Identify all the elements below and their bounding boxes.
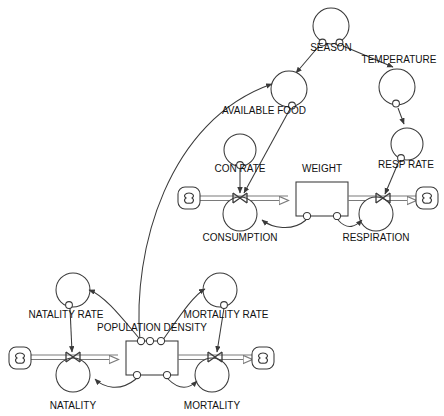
converter-season[interactable] <box>313 8 349 44</box>
flow-natality-circle[interactable] <box>56 358 90 392</box>
flow-consumption-circle[interactable] <box>223 197 257 231</box>
consumption-source-cloud <box>178 187 200 209</box>
stock-population-density[interactable] <box>126 341 178 375</box>
converter-available-food[interactable] <box>271 71 307 107</box>
label-con-rate: CON RATE <box>215 163 266 174</box>
connector-population-density-to-mortality[interactable] <box>168 379 197 387</box>
population-density-port-top-1 <box>137 337 144 344</box>
label-population-density: POPULATION DENSITY <box>97 322 207 333</box>
respiration-sink-cloud <box>416 187 438 209</box>
natality-source-cloud <box>9 347 31 369</box>
label-natality: NATALITY <box>50 400 97 411</box>
population-density-port-top-2 <box>146 337 153 344</box>
stock-weight[interactable] <box>296 182 348 216</box>
flow-mortality-circle[interactable] <box>195 358 229 392</box>
connector-population-density-to-natality[interactable] <box>95 379 136 387</box>
label-resp-rate: RESP RATE <box>378 159 434 170</box>
connector-weight-to-consumption[interactable] <box>262 220 306 228</box>
converter-temperature[interactable] <box>379 69 415 105</box>
weight-port-left <box>303 212 310 219</box>
label-season: SEASON <box>310 42 352 53</box>
converter-mortality-rate[interactable] <box>203 273 237 307</box>
population-density-port-bottom-left <box>133 371 140 378</box>
diagram-canvas: SEASON TEMPERATURE AVAILABLE FOOD CON RA… <box>0 0 444 416</box>
weight-port-right <box>333 212 340 219</box>
label-mortality-rate: MORTALITY RATE <box>184 309 269 320</box>
connector-temperature-to-resp-rate[interactable] <box>398 108 404 124</box>
label-respiration: RESPIRATION <box>342 232 409 243</box>
natality-rate-port <box>66 302 73 309</box>
converter-resp-rate[interactable] <box>391 128 423 160</box>
label-available-food: AVAILABLE FOOD <box>222 105 306 116</box>
label-natality-rate: NATALITY RATE <box>29 309 104 320</box>
label-temperature: TEMPERATURE <box>362 54 437 65</box>
connector-weight-to-respiration[interactable] <box>338 220 362 227</box>
mortality-rate-port <box>221 302 228 309</box>
label-mortality: MORTALITY <box>184 400 241 411</box>
mortality-sink-cloud <box>252 347 274 369</box>
population-density-port-top-3 <box>157 337 164 344</box>
converter-natality-rate[interactable] <box>56 273 90 307</box>
label-consumption: CONSUMPTION <box>203 232 278 243</box>
population-density-port-bottom-right <box>163 371 170 378</box>
temperature-port <box>393 100 400 107</box>
system-dynamics-diagram: SEASON TEMPERATURE AVAILABLE FOOD CON RA… <box>0 0 444 416</box>
label-weight: WEIGHT <box>302 163 342 174</box>
